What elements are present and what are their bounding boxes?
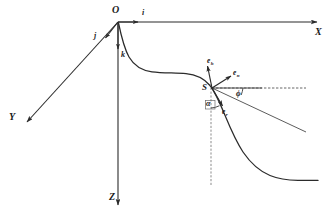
x-axis-label: X <box>315 27 322 37</box>
station-point-label: S <box>202 83 207 92</box>
e-r-base: e <box>222 107 225 116</box>
phi-angle-label: ϕ <box>236 90 241 98</box>
axis-y <box>27 22 118 122</box>
e-n-base: e <box>233 68 236 77</box>
origin-label: O <box>112 5 119 15</box>
diagram-vector-graphics <box>0 0 331 222</box>
y-axis-label: Y <box>9 112 15 122</box>
phi-angle-arc <box>241 88 243 95</box>
local-unit-vector-e-h-label: eh <box>207 57 213 65</box>
z-axis-label: Z <box>109 192 115 202</box>
alpha-angle-label: α <box>206 100 210 108</box>
unit-vector-j <box>106 22 119 38</box>
trajectory-curve <box>119 23 319 180</box>
unit-vector-i-label: i <box>142 9 144 17</box>
e-r-subscript: r <box>226 112 228 117</box>
unit-vector-j-label: j <box>94 32 96 40</box>
station-point-marker <box>211 87 213 89</box>
unit-vector-k-label: k <box>121 51 125 59</box>
e-h-base: e <box>207 56 210 65</box>
diagram-canvas: O X Y Z i j k S eh en er α ϕ <box>0 0 331 222</box>
local-unit-vector-e-n <box>212 76 231 88</box>
local-unit-vector-e-r-label: er <box>222 108 227 116</box>
local-unit-vector-e-n-label: en <box>233 69 239 77</box>
